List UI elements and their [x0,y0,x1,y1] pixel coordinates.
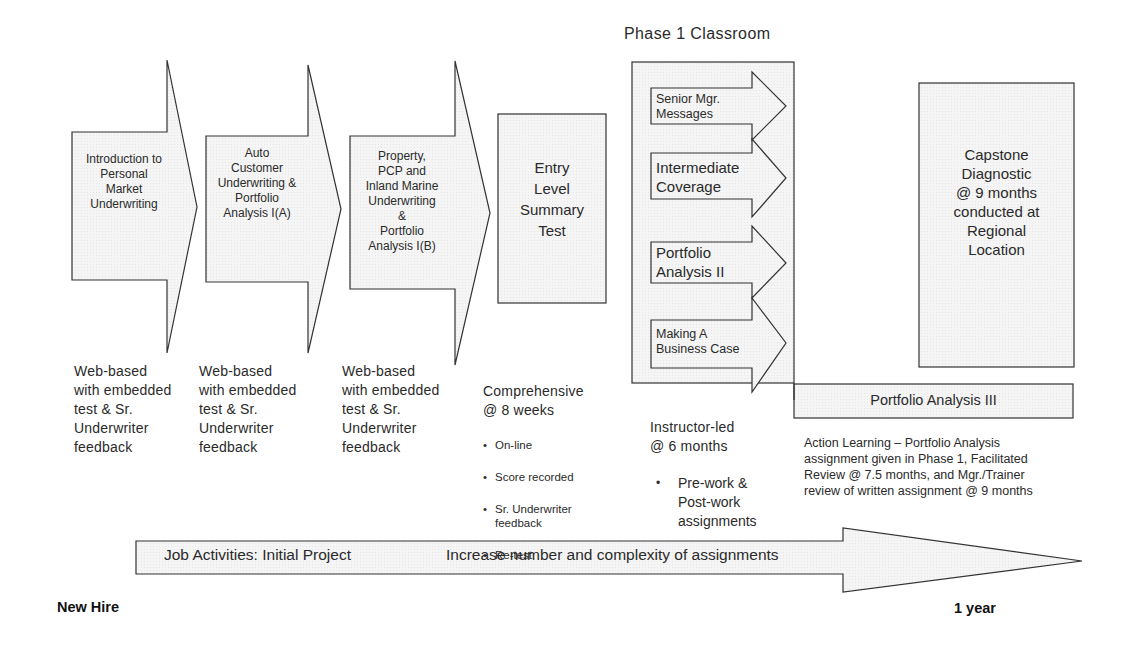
entry-test-heading: Comprehensive @ 8 weeks [483,382,584,420]
stage-label-capstone: Capstone Diagnostic @ 9 months conducted… [919,145,1074,259]
entry-test-bullet: Sr. Underwriter feedback [483,502,584,530]
phase1-heading: Instructor-led @ 6 months [650,418,757,456]
inner-label-portfolio-ii: Portfolio Analysis II [656,243,724,281]
portfolio-analysis-iii-label: Portfolio Analysis III [794,392,1073,408]
inner-label-senior-mgr: Senior Mgr. Messages [656,92,720,122]
stage-description-intro: Web-based with embedded test & Sr. Under… [74,362,172,457]
stage-description-property: Web-based with embedded test & Sr. Under… [342,362,440,457]
stage-label-intro: Introduction to Personal Market Underwri… [76,152,172,212]
entry-test-bullet: On-line [483,438,584,452]
phase1-description: Instructor-led @ 6 months Pre-work & Pos… [650,400,757,549]
phase-title: Phase 1 Classroom [624,25,770,43]
inner-label-business-case: Making A Business Case [656,327,739,357]
timeline-end-label: 1 year [954,600,996,616]
timeline-label-left: Job Activities: Initial Project [164,546,351,564]
stage-description-auto: Web-based with embedded test & Sr. Under… [199,362,297,457]
inner-label-intermediate: Intermediate Coverage [656,158,739,196]
timeline-label-right: Increase number and complexity of assign… [446,546,779,564]
timeline-start-label: New Hire [57,599,119,615]
portfolio-analysis-iii-description: Action Learning – Portfolio Analysis ass… [804,435,1033,499]
stage-label-entry-test: Entry Level Summary Test [498,157,606,241]
stage-label-property: Property, PCP and Inland Marine Underwri… [352,149,452,254]
entry-test-bullet: Score recorded [483,470,584,484]
phase1-bullet: Pre-work & Post-work assignments [650,474,757,531]
stage-label-auto: Auto Customer Underwriting & Portfolio A… [206,146,308,221]
